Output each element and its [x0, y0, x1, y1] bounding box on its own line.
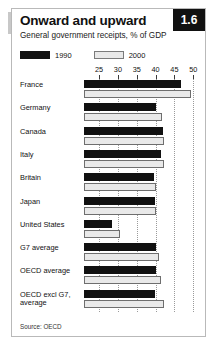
legend-label-2000: 2000: [129, 51, 146, 60]
bar-2000: [84, 276, 161, 284]
x-tick-label: 35: [133, 65, 141, 74]
category-label: Italy: [20, 151, 82, 160]
bar-2000: [84, 207, 156, 215]
bar-1990: [84, 103, 156, 111]
category-label: Canada: [20, 128, 82, 137]
bar-1990: [84, 197, 155, 205]
plot-area: 253035404550 FranceGermanyCanadaItalyBri…: [20, 65, 197, 312]
x-tick-label: 45: [170, 65, 178, 74]
grey-swatch-icon: [94, 51, 124, 59]
bar-pair: [84, 172, 197, 195]
bar-1990: [84, 290, 155, 298]
bar-row: G7 average: [20, 242, 197, 265]
category-label: OECD average: [20, 267, 82, 276]
bar-1990: [84, 150, 161, 158]
bar-2000: [84, 160, 164, 168]
bar-row: Japan: [20, 196, 197, 219]
chart-title: Onward and upward: [20, 13, 146, 28]
bar-1990: [84, 127, 163, 135]
chart-subtitle: General government receipts, % of GDP: [20, 31, 167, 40]
bar-row: Italy: [20, 149, 197, 172]
bar-1990: [84, 243, 156, 251]
x-tick-label: 25: [95, 65, 103, 74]
source-note: Source: OECD: [20, 323, 62, 330]
bar-pair: [84, 149, 197, 172]
bar-pair: [84, 219, 197, 242]
bar-1990: [84, 80, 181, 88]
bar-row: France: [20, 79, 197, 102]
bar-2000: [84, 253, 159, 261]
bar-rows: FranceGermanyCanadaItalyBritainJapanUnit…: [20, 79, 197, 312]
bar-pair: [84, 289, 197, 312]
bar-2000: [84, 300, 164, 308]
category-label: France: [20, 81, 82, 90]
category-label: OECD excl G7, average: [20, 291, 82, 308]
x-axis: 253035404550: [84, 65, 197, 79]
bar-pair: [84, 242, 197, 265]
bar-row: Britain: [20, 172, 197, 195]
black-swatch-icon: [20, 51, 50, 59]
category-label: Germany: [20, 104, 82, 113]
bar-row: Canada: [20, 126, 197, 149]
bar-1990: [84, 266, 156, 274]
bar-1990: [84, 173, 154, 181]
category-label: United States: [20, 221, 82, 230]
chart-figure: Onward and upward 1.6 General government…: [11, 8, 206, 337]
bar-row: OECD excl G7, average: [20, 289, 197, 312]
bar-1990: [84, 220, 112, 228]
legend-item-1990: 1990: [20, 51, 72, 60]
bar-pair: [84, 265, 197, 288]
bar-row: Germany: [20, 102, 197, 125]
category-label: Britain: [20, 174, 82, 183]
bar-2000: [84, 137, 164, 145]
bar-row: United States: [20, 219, 197, 242]
bar-row: OECD average: [20, 265, 197, 288]
bar-2000: [84, 90, 191, 98]
bar-pair: [84, 102, 197, 125]
category-label: Japan: [20, 198, 82, 207]
bar-2000: [84, 113, 162, 121]
bar-2000: [84, 230, 120, 238]
x-tick-label: 50: [189, 65, 197, 74]
legend-label-1990: 1990: [55, 51, 72, 60]
x-tick-label: 30: [114, 65, 122, 74]
bar-pair: [84, 196, 197, 219]
figure-number-badge: 1.6: [173, 9, 205, 31]
legend-item-2000: 2000: [94, 51, 146, 60]
bar-pair: [84, 126, 197, 149]
bar-pair: [84, 79, 197, 102]
chart-legend: 1990 2000: [20, 49, 145, 61]
category-label: G7 average: [20, 244, 82, 253]
bar-2000: [84, 183, 156, 191]
x-tick-label: 40: [152, 65, 160, 74]
